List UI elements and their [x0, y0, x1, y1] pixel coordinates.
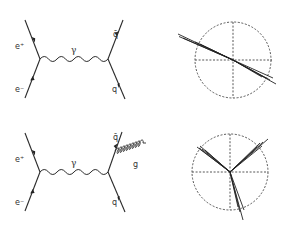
label-antiquark: q̄ [113, 133, 118, 142]
label-quark: q [112, 85, 117, 94]
event-display-two-jet [178, 22, 276, 98]
photon-line [40, 170, 108, 175]
label-photon: γ [71, 45, 76, 55]
event-display-three-jet [192, 134, 268, 220]
positron-line [25, 133, 40, 172]
label-electron: e⁻ [15, 198, 24, 207]
antiquark-line [108, 20, 123, 59]
electron-arrow-icon [30, 76, 34, 81]
label-gluon: g [133, 160, 138, 169]
label-antiquark: q̄ [113, 30, 118, 39]
figure-canvas: e⁺ e⁻ γ q̄ q [0, 0, 289, 226]
feynman-diagram-qqbar: e⁺ e⁻ γ q̄ q [15, 20, 125, 99]
gluon-line [115, 140, 146, 154]
label-quark: q [112, 198, 117, 207]
feynman-diagram-qqbarg: e⁺ e⁻ γ q̄ q g [15, 132, 146, 212]
label-electron: e⁻ [15, 85, 24, 94]
positron-line [25, 20, 40, 59]
jet-tracks [178, 34, 276, 84]
electron-arrow-icon [30, 189, 34, 194]
label-positron: e⁺ [15, 42, 24, 51]
photon-line [40, 57, 108, 62]
label-photon: γ [71, 158, 76, 168]
jet-tracks [197, 139, 268, 220]
label-positron: e⁺ [15, 155, 24, 164]
